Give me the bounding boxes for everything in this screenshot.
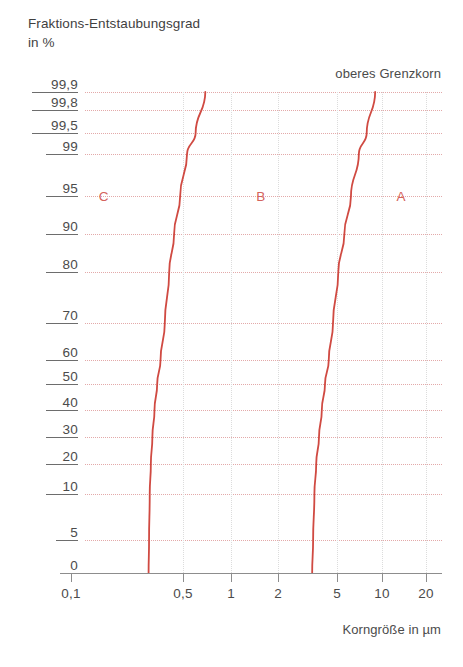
gridline-horizontal bbox=[85, 384, 442, 385]
curve-label-a: A bbox=[397, 189, 406, 204]
gridline-horizontal bbox=[85, 410, 442, 411]
gridline-horizontal bbox=[85, 437, 442, 438]
gridline-horizontal bbox=[85, 540, 442, 541]
y-tick-label: 50 bbox=[18, 369, 78, 385]
gridline-horizontal bbox=[85, 360, 442, 361]
y-tick-mark bbox=[46, 234, 78, 235]
gridline-horizontal bbox=[85, 494, 442, 495]
y-tick-label: 99 bbox=[18, 139, 78, 155]
y-tick-mark bbox=[46, 360, 78, 361]
x-tick-mark bbox=[71, 573, 72, 582]
y-tick-label: 70 bbox=[18, 308, 78, 324]
y-tick-mark bbox=[46, 196, 78, 197]
gridline-horizontal bbox=[85, 323, 442, 324]
y-tick-mark bbox=[32, 110, 78, 111]
gridline-horizontal bbox=[85, 92, 442, 93]
y-tick-label: 99,8 bbox=[18, 95, 78, 111]
x-axis-line bbox=[60, 573, 442, 574]
x-tick-label: 0,5 bbox=[173, 586, 192, 601]
y-tick-mark bbox=[46, 272, 78, 273]
y-axis-title: Fraktions-Entstaubungsgrad in % bbox=[28, 14, 200, 52]
x-tick-mark bbox=[278, 573, 279, 582]
x-tick-label: 2 bbox=[274, 586, 282, 601]
gridline-horizontal bbox=[85, 234, 442, 235]
x-tick-mark bbox=[337, 573, 338, 582]
y-tick-label: 5 bbox=[18, 525, 78, 541]
y-tick-mark bbox=[46, 437, 78, 438]
x-tick-mark bbox=[183, 573, 184, 582]
x-tick-label: 5 bbox=[333, 586, 341, 601]
y-tick-label: 90 bbox=[18, 219, 78, 235]
gridline-vertical bbox=[426, 92, 427, 573]
y-tick-mark bbox=[46, 494, 78, 495]
y-tick-label: 20 bbox=[18, 449, 78, 465]
y-tick-mark bbox=[46, 154, 78, 155]
gridline-horizontal bbox=[85, 110, 442, 111]
gridline-vertical bbox=[382, 92, 383, 573]
y-tick-mark bbox=[46, 323, 78, 324]
curve-label-b: B bbox=[256, 189, 265, 204]
y-tick-mark bbox=[32, 133, 78, 134]
y-tick-mark bbox=[46, 384, 78, 385]
y-tick-label: 95 bbox=[18, 181, 78, 197]
y-tick-mark bbox=[56, 540, 78, 541]
gridline-horizontal bbox=[85, 464, 442, 465]
y-tick-label: 99,5 bbox=[18, 118, 78, 134]
gridline-vertical bbox=[337, 92, 338, 573]
x-tick-mark bbox=[426, 573, 427, 582]
chart-figure: Fraktions-Entstaubungsgrad in % oberes G… bbox=[0, 0, 463, 667]
curve-label-c: C bbox=[99, 189, 109, 204]
gridline-horizontal bbox=[85, 154, 442, 155]
gridline-horizontal bbox=[85, 272, 442, 273]
y-tick-label: 10 bbox=[18, 479, 78, 495]
y-tick-label: 80 bbox=[18, 257, 78, 273]
y-tick-label: 40 bbox=[18, 395, 78, 411]
y-tick-mark bbox=[46, 410, 78, 411]
gridline-horizontal bbox=[85, 133, 442, 134]
x-tick-label: 1 bbox=[227, 586, 235, 601]
y-tick-mark bbox=[46, 464, 78, 465]
y-tick-label: 30 bbox=[18, 422, 78, 438]
x-tick-label: 10 bbox=[374, 586, 389, 601]
y-tick-mark bbox=[32, 92, 78, 93]
x-tick-mark bbox=[231, 573, 232, 582]
x-tick-label: 0,1 bbox=[61, 586, 80, 601]
y-tick-label: 99,9 bbox=[18, 77, 78, 93]
annotation-oberes-grenzkorn: oberes Grenzkorn bbox=[335, 66, 441, 81]
plot-area bbox=[85, 92, 442, 573]
gridline-vertical bbox=[278, 92, 279, 573]
y-tick-label: 60 bbox=[18, 345, 78, 361]
gridline-vertical bbox=[183, 92, 184, 573]
x-tick-label: 20 bbox=[418, 586, 433, 601]
y-tick-label: 0 bbox=[18, 558, 78, 574]
x-tick-mark bbox=[382, 573, 383, 582]
gridline-vertical bbox=[231, 92, 232, 573]
x-axis-title: Korngröße in µm bbox=[342, 622, 441, 637]
